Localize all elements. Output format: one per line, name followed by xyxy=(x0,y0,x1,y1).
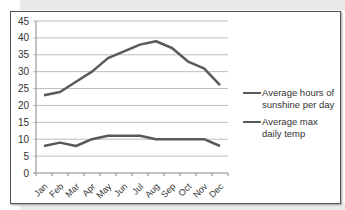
y-tick-label: 5 xyxy=(23,151,29,162)
x-tick-label: Apr xyxy=(80,181,97,198)
x-tick-label: Nov xyxy=(191,181,210,200)
x-tick-label: Feb xyxy=(47,181,65,199)
legend-swatch-sunshine xyxy=(243,92,261,94)
x-tick-label: Dec xyxy=(207,181,226,200)
x-tick-label: Aug xyxy=(143,181,161,199)
y-tick-label: 20 xyxy=(18,100,30,111)
legend-swatch-temp xyxy=(243,121,261,123)
y-tick-label: 10 xyxy=(18,134,30,145)
y-tick-label: 35 xyxy=(18,49,30,60)
y-tick-label: 15 xyxy=(18,117,30,128)
legend-label-sunshine: Average hours of sunshine per day xyxy=(261,87,338,111)
x-tick-label: Jan xyxy=(32,181,49,198)
x-tick-label: Mar xyxy=(63,181,81,199)
x-tick-label: May xyxy=(94,181,113,200)
y-tick-label: 45 xyxy=(18,16,30,27)
legend-label-temp: Average max daily temp xyxy=(261,116,338,140)
legend-item-temp: Average max daily temp xyxy=(243,116,338,140)
y-tick-label: 30 xyxy=(18,66,30,77)
x-tick-label: Sep xyxy=(159,181,177,199)
y-tick-label: 0 xyxy=(23,168,29,179)
x-tick-label: Oct xyxy=(176,181,193,198)
y-tick-label: 25 xyxy=(18,83,30,94)
series-line-temp xyxy=(44,136,220,146)
y-tick-label: 40 xyxy=(18,32,30,43)
series-line-sunshine xyxy=(44,41,220,95)
legend-item-sunshine: Average hours of sunshine per day xyxy=(243,87,338,111)
x-tick-label: Jun xyxy=(112,181,129,198)
chart-legend: Average hours of sunshine per day Averag… xyxy=(243,87,338,145)
x-tick-label: Jul xyxy=(130,181,145,196)
